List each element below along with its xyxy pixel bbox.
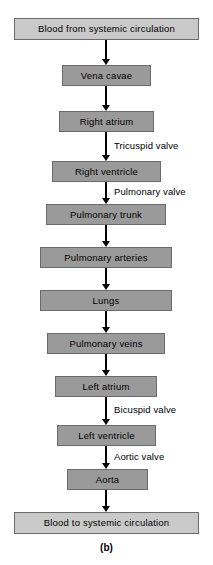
- edge-label-to-left-ventricle: Bicuspid valve: [114, 405, 176, 415]
- node-pulmonary-trunk: Pulmonary trunk: [46, 204, 166, 225]
- node-pulmonary-arteries: Pulmonary arteries: [40, 247, 172, 268]
- node-lungs: Lungs: [40, 290, 172, 311]
- node-label: Left atrium: [82, 382, 129, 392]
- node-label: Right atrium: [80, 117, 134, 127]
- arrow-stem: [105, 446, 107, 464]
- arrow-stem: [105, 132, 107, 156]
- node-pulmonary-veins: Pulmonary veins: [47, 333, 165, 354]
- node-left-ventricle: Left ventricle: [57, 425, 156, 446]
- node-blood-to-systemic-circulation: Blood to systemic circulation: [14, 512, 199, 534]
- node-left-atrium: Left atrium: [55, 376, 157, 397]
- edge-label-to-right-ventricle: Tricuspid valve: [114, 141, 179, 151]
- circulation-flowchart: Tricuspid valvePulmonary valveBicuspid v…: [0, 0, 213, 565]
- edge-label-to-aorta: Aortic valve: [114, 452, 164, 462]
- node-label: Pulmonary trunk: [70, 210, 142, 220]
- node-label: Pulmonary veins: [69, 339, 142, 349]
- arrow-stem: [105, 490, 107, 507]
- node-aorta: Aorta: [67, 469, 148, 490]
- arrow-stem: [105, 397, 107, 420]
- arrow-stem: [105, 40, 107, 60]
- arrow-stem: [105, 354, 107, 371]
- arrow-stem: [105, 268, 107, 285]
- node-label: Lungs: [93, 296, 120, 306]
- node-blood-from-systemic-circulation: Blood from systemic circulation: [14, 18, 199, 40]
- node-right-ventricle: Right ventricle: [52, 161, 161, 182]
- arrow-stem: [105, 311, 107, 328]
- node-label: Left ventricle: [78, 431, 135, 441]
- node-vena-cavae: Vena cavae: [62, 65, 151, 86]
- node-label: Aorta: [96, 475, 120, 485]
- arrow-stem: [105, 86, 107, 106]
- node-label: Blood from systemic circulation: [38, 24, 175, 34]
- arrow-stem: [105, 225, 107, 242]
- figure-caption: (b): [0, 542, 213, 553]
- node-label: Vena cavae: [81, 71, 133, 81]
- node-label: Right ventricle: [75, 167, 138, 177]
- arrow-stem: [105, 182, 107, 199]
- node-label: Pulmonary arteries: [64, 253, 147, 263]
- node-label: Blood to systemic circulation: [44, 518, 170, 528]
- node-right-atrium: Right atrium: [59, 111, 154, 132]
- edge-label-to-pulmonary-trunk: Pulmonary valve: [114, 187, 186, 197]
